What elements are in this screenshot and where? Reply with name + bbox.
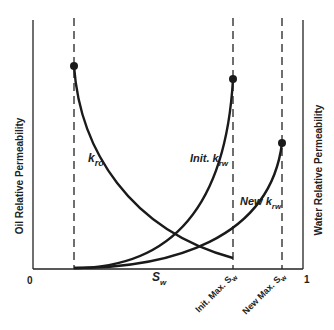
left-axis-title: Oil Relative Permeability [14, 117, 25, 234]
init-krw-curve [74, 79, 233, 268]
init-krw-endpoint-marker [229, 75, 237, 83]
kro-endpoint-marker [70, 62, 78, 70]
x-tick-one: 1 [304, 274, 310, 285]
kro-label: kro [88, 151, 104, 168]
new-krw-label: New krw [240, 195, 282, 211]
init-max-sw-label: Init. Max. Sw [193, 270, 239, 316]
right-axis-title: Water Relative Permeability [313, 104, 324, 235]
x-tick-zero: 0 [27, 275, 33, 286]
x-axis-label: Sw [152, 270, 167, 287]
relative-permeability-chart: kro Init. krw New krw 0 1 Sw Init. Max. … [0, 0, 334, 330]
init-krw-label: Init. krw [190, 152, 229, 168]
new-max-sw-label: New Max. Sw [240, 270, 288, 318]
new-krw-endpoint-marker [278, 139, 286, 147]
